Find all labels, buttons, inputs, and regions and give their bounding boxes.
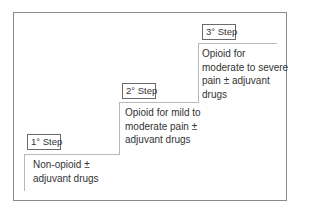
step-2-description-line: moderate pain ± bbox=[125, 120, 201, 134]
step-2-description: Opioid for mild to moderate pain ± adjuv… bbox=[125, 106, 201, 147]
step-3-description-line: moderate to severe bbox=[202, 61, 288, 75]
step-3-label: 3° Step bbox=[202, 24, 236, 40]
step-1-tread bbox=[24, 154, 120, 155]
step-3-description-line: Opioid for bbox=[202, 47, 288, 61]
step-3-tread bbox=[198, 43, 277, 44]
step-1-description-line: adjuvant drugs bbox=[33, 172, 99, 186]
step-1-description-line: Non-opioid ± bbox=[33, 158, 99, 172]
step-3-description-line: drugs bbox=[202, 88, 288, 102]
step-3-description-line: pain ± adjuvant bbox=[202, 74, 288, 88]
step-2-description-line: adjuvant drugs bbox=[125, 133, 201, 147]
step-1-left-edge bbox=[24, 154, 25, 191]
step-2-description-line: Opioid for mild to bbox=[125, 106, 201, 120]
step-2-tread bbox=[119, 102, 199, 103]
step-2-label: 2° Step bbox=[122, 83, 156, 99]
step-2-riser bbox=[119, 102, 120, 155]
step-1-label: 1° Step bbox=[27, 134, 61, 150]
step-3-riser bbox=[198, 43, 199, 103]
step-3-description: Opioid for moderate to severe pain ± adj… bbox=[202, 47, 288, 101]
step-1-description: Non-opioid ± adjuvant drugs bbox=[33, 158, 99, 185]
